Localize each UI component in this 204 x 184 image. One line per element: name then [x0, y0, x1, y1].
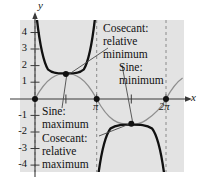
annotation-sine-maximum-line1: Sine: [42, 105, 66, 118]
point-origin [32, 96, 38, 102]
y-tick-label-neg2: -2 [8, 125, 27, 136]
y-tick-label-neg3: -3 [8, 142, 27, 153]
y-axis-label: y [38, 0, 43, 11]
y-tick-label-3: 3 [13, 42, 27, 53]
x-tick-label-two-pi: 2π [159, 101, 170, 112]
annotation-cosecant-relative-minimum-line3: minimum [103, 48, 148, 61]
annotation-cosecant-relative-maximum-line2: relative [42, 145, 76, 158]
y-tick-label-4: 4 [13, 26, 27, 37]
y-axis-arrow [32, 12, 37, 19]
x-tick-label-pi: π [93, 101, 98, 112]
annotation-cosecant-relative-maximum-line1: Cosecant: [42, 132, 87, 145]
point-sine-minimum [128, 121, 134, 127]
y-tick-label-2: 2 [13, 59, 27, 70]
trig-graph-figure: y x 4 3 2 1 -1 -2 -3 -4 π 2π Cosecant: r… [0, 0, 204, 184]
y-tick-label-neg4: -4 [8, 158, 27, 169]
y-tick-label-neg1: -1 [8, 109, 27, 120]
annotation-sine-maximum-line2: maximum [42, 118, 89, 131]
plot-canvas [0, 0, 204, 184]
annotation-sine-minimum-line1: Sine: [119, 61, 143, 74]
annotation-cosecant-relative-maximum-line3: maximum [42, 158, 89, 171]
annotation-cosecant-relative-minimum-line2: relative [103, 35, 137, 48]
annotation-sine-minimum-line2: minimum [119, 74, 164, 87]
y-tick-label-1: 1 [13, 75, 27, 86]
x-axis-label: x [191, 91, 196, 103]
point-sine-maximum [63, 71, 69, 77]
annotation-cosecant-relative-minimum-line1: Cosecant: [103, 22, 148, 35]
